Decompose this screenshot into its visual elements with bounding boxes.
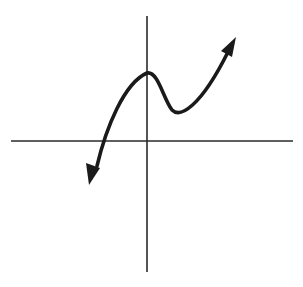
function-curve (97, 52, 228, 166)
function-graph (0, 0, 303, 287)
right-arrowhead-icon (221, 37, 236, 57)
